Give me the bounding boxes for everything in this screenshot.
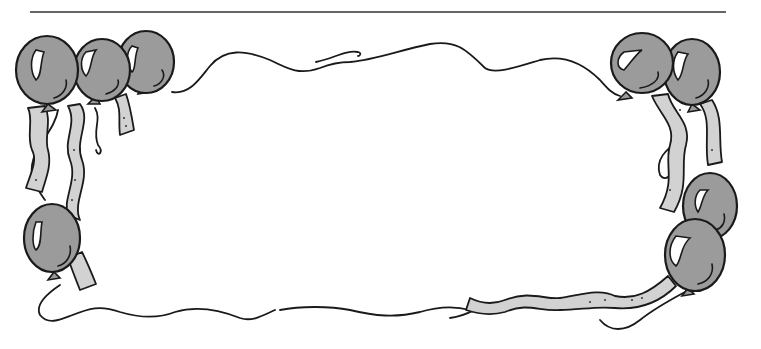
balloon-frame-illustration [0, 0, 761, 349]
ribbons [26, 94, 722, 314]
balloon [74, 39, 130, 104]
balloon [16, 36, 78, 112]
balloon [611, 33, 673, 100]
